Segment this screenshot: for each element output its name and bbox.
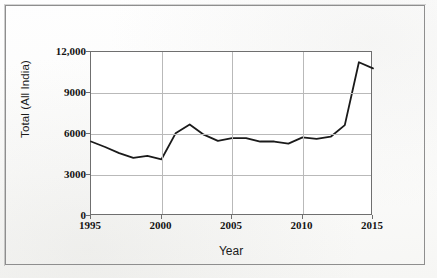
y-tick-label: 3000 [34, 168, 86, 180]
gridline-vertical [303, 52, 304, 214]
y-tick-label: 12,000 [34, 45, 86, 57]
gridline-horizontal [91, 175, 371, 176]
x-tick-label: 2005 [201, 219, 261, 231]
gridline-vertical [232, 52, 233, 214]
chart-screenshot: Total (All India) 030006000900012,000 19… [0, 0, 437, 278]
gridline-horizontal [91, 93, 371, 94]
x-axis-tick-labels: 19952000200520102015 [90, 219, 372, 235]
y-tick-label: 9000 [34, 86, 86, 98]
y-axis-tick-labels: 030006000900012,000 [30, 51, 86, 215]
y-tick-label: 6000 [34, 127, 86, 139]
x-axis-title: Year [90, 244, 372, 258]
x-tick-label: 2015 [342, 219, 402, 231]
plot-area [90, 51, 372, 215]
x-tick-label: 1995 [60, 219, 120, 231]
x-tick-label: 2010 [272, 219, 332, 231]
gridline-horizontal [91, 134, 371, 135]
x-tick-label: 2000 [131, 219, 191, 231]
gridline-vertical [162, 52, 163, 214]
